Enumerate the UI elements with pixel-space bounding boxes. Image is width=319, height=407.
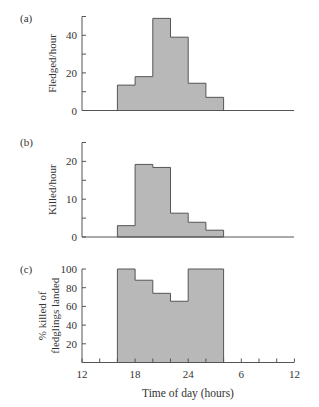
bar: 16-18: 100 xyxy=(117,269,135,363)
y-axis-label: % killed of xyxy=(36,291,48,340)
bar: 0-4: 100 xyxy=(188,269,223,363)
y-axis-label: fledglings landed xyxy=(49,277,61,354)
x-axis-label: Time of day (hours) xyxy=(142,387,234,400)
panel-label: (b) xyxy=(20,136,33,149)
bar: 18-20: 88 xyxy=(135,280,153,362)
y-tick-label: 40 xyxy=(66,29,78,41)
bar: 20-22: 49 xyxy=(153,18,171,110)
bar: 16-18: 13.5 xyxy=(117,85,135,110)
x-tick-label: 12 xyxy=(289,368,300,380)
bar: 2-4: 7 xyxy=(206,97,224,110)
y-tick-label: 0 xyxy=(72,105,78,117)
y-axis-label: Fledged/hour xyxy=(46,34,58,93)
y-tick-label: 20 xyxy=(66,338,78,350)
x-tick-label: 12 xyxy=(77,368,88,380)
bar: 0-2: 14.5 xyxy=(188,83,206,110)
y-tick-label: 10 xyxy=(66,193,78,205)
bar: 22-24: 65.5 xyxy=(171,301,189,362)
x-tick-label: 18 xyxy=(130,368,142,380)
bar: 18-20: 18 xyxy=(135,77,153,111)
bar: 22-24: 6.3 xyxy=(171,213,189,237)
y-tick-label: 100 xyxy=(61,263,78,275)
y-tick-label: 20 xyxy=(66,155,78,167)
x-tick-label: 24 xyxy=(183,368,195,380)
fledgling-predation-figure: (a)16-18: 13.518-20: 1820-22: 4922-24: 3… xyxy=(0,0,319,407)
bar: 20-22: 74 xyxy=(153,293,171,362)
bar: 0-2: 3.9 xyxy=(188,222,206,237)
panel-c: (c)16-18: 10018-20: 8820-22: 7422-24: 65… xyxy=(20,263,300,400)
y-axis-label: Killed/hour xyxy=(46,164,58,215)
panel-a: (a)16-18: 13.518-20: 1820-22: 4922-24: 3… xyxy=(20,12,294,117)
y-tick-label: 0 xyxy=(72,231,78,243)
panel-label: (c) xyxy=(20,263,33,276)
bar: 2-4: 1.8 xyxy=(206,230,224,237)
bar: 20-22: 18.4 xyxy=(153,167,171,237)
y-tick-label: 80 xyxy=(66,282,78,294)
x-tick-label: 6 xyxy=(239,368,245,380)
y-tick-label: 40 xyxy=(66,319,78,331)
y-tick-label: 60 xyxy=(66,300,78,312)
panel-label: (a) xyxy=(20,12,33,25)
bar: 16-18: 3 xyxy=(117,226,135,237)
bar: 22-24: 39 xyxy=(171,37,189,110)
y-tick-label: 20 xyxy=(66,67,78,79)
panel-b: (b)16-18: 318-20: 19.220-22: 18.422-24: … xyxy=(20,136,294,243)
bar: 18-20: 19.2 xyxy=(135,164,153,237)
